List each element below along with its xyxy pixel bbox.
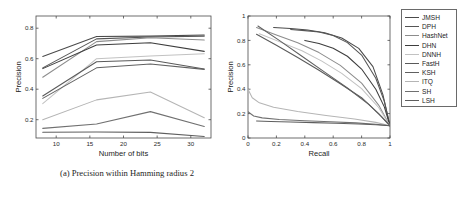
- y-axis-label: Precision: [14, 61, 23, 92]
- legend-item-fasth[interactable]: FastH: [405, 59, 456, 68]
- legend-label: DNNH: [422, 50, 441, 59]
- series-line-dph: [291, 29, 390, 125]
- legend-item-hashnet[interactable]: HashNet: [405, 31, 456, 40]
- y-axis-label: Precision: [226, 61, 235, 92]
- series-group: [43, 35, 205, 136]
- y-tick-label: 0.6: [237, 61, 246, 68]
- x-axis-label: Recall: [308, 149, 329, 158]
- legend-item-dhn[interactable]: DHN: [405, 41, 456, 50]
- legend-label: KSH: [422, 68, 436, 77]
- legend-swatch-dnnh: [405, 54, 419, 55]
- legend-item-dph[interactable]: DPH: [405, 22, 456, 31]
- legend-label: FastH: [422, 59, 440, 68]
- precision-recall-chart: 00.20.40.60.8100.20.40.60.81RecallPrecis…: [222, 10, 397, 168]
- x-tick-label: 10: [53, 140, 60, 147]
- series-line-sh: [43, 112, 205, 129]
- series-line-itq: [248, 89, 390, 126]
- x-tick-label: 30: [187, 140, 194, 147]
- series-line-sh: [248, 112, 390, 126]
- x-tick-label: 0.2: [272, 140, 281, 147]
- legend-label: DHN: [422, 41, 436, 50]
- series-group: [248, 26, 390, 126]
- legend-label: ITQ: [422, 77, 433, 86]
- legend-item-dnnh[interactable]: DNNH: [405, 50, 456, 59]
- y-tick-label: 0: [242, 134, 246, 141]
- x-tick-label: 1: [388, 140, 392, 147]
- legend-item-lsh[interactable]: LSH: [405, 96, 456, 105]
- y-tick-label: 1: [242, 12, 246, 19]
- y-tick-label: 0.4: [237, 85, 246, 92]
- plot-area-b: 00.20.40.60.8100.20.40.60.81RecallPrecis…: [222, 10, 397, 168]
- x-axis-label: Number of bits: [99, 149, 149, 158]
- legend-item-sh[interactable]: SH: [405, 87, 456, 96]
- y-tick-label: 0.6: [25, 55, 34, 62]
- y-tick-label: 0.2: [237, 110, 246, 117]
- plot-area-a: 10152025300.20.40.60.8Number of bitsPrec…: [6, 10, 218, 168]
- legend-swatch-hashnet: [405, 35, 419, 36]
- x-tick-label: 0.4: [300, 140, 309, 147]
- chart-legend: JMSHDPHHashNetDHNDNNHFastHKSHITQSHLSH: [401, 9, 457, 107]
- series-line-hashnet: [257, 28, 390, 126]
- legend-label: LSH: [422, 96, 435, 105]
- x-tick-label: 0: [246, 140, 250, 147]
- plot-frame: [36, 16, 211, 138]
- series-line-itq: [43, 92, 205, 120]
- x-tick-label: 15: [86, 140, 93, 147]
- precision-vs-bits-chart: 10152025300.20.40.60.8Number of bitsPrec…: [6, 10, 218, 168]
- x-tick-label: 0.8: [357, 140, 366, 147]
- legend-item-itq[interactable]: ITQ: [405, 77, 456, 86]
- y-tick-label: 0.8: [25, 24, 34, 31]
- y-tick-label: 0.8: [237, 37, 246, 44]
- legend-label: SH: [422, 87, 431, 96]
- legend-swatch-jmsh: [405, 17, 419, 18]
- legend-swatch-fasth: [405, 63, 419, 64]
- legend-swatch-ksh: [405, 72, 419, 73]
- legend-label: HashNet: [422, 31, 448, 40]
- legend-label: DPH: [422, 22, 436, 31]
- legend-swatch-dph: [405, 26, 419, 27]
- y-tick-label: 0.4: [25, 85, 34, 92]
- x-tick-label: 25: [154, 140, 161, 147]
- legend-swatch-sh: [405, 91, 419, 92]
- x-tick-label: 20: [120, 140, 127, 147]
- legend-item-jmsh[interactable]: JMSH: [405, 13, 456, 22]
- x-tick-label: 0.6: [329, 140, 338, 147]
- series-line-dnnh: [259, 34, 390, 126]
- legend-label: JMSH: [422, 13, 440, 22]
- caption-a: (a) Precision within Hamming radius 2: [32, 168, 222, 179]
- legend-swatch-itq: [405, 81, 419, 82]
- legend-swatch-dhn: [405, 45, 419, 46]
- series-line-dph: [43, 36, 205, 68]
- figure-panel-group: 10152025300.20.40.60.8Number of bitsPrec…: [0, 0, 469, 206]
- legend-swatch-lsh: [405, 100, 419, 101]
- series-line-fasth: [43, 60, 205, 96]
- y-tick-label: 0.2: [25, 116, 34, 123]
- legend-item-ksh[interactable]: KSH: [405, 68, 456, 77]
